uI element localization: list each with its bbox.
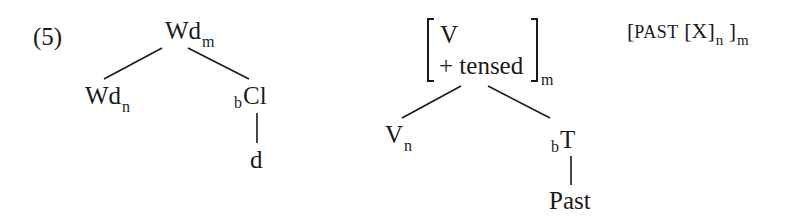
tree2-left-node: Vn bbox=[385, 122, 412, 147]
tree1-root-label: Wd bbox=[165, 17, 201, 44]
tree1-root-node: Wdm bbox=[165, 18, 215, 43]
tree2-root-feature-category: V bbox=[440, 22, 458, 47]
outer-subscript: m bbox=[737, 32, 749, 48]
labelled-bracketing: [PAST [X]n ]m bbox=[627, 20, 749, 42]
tree2-right-node: bT bbox=[551, 127, 575, 152]
tree2-left-label: V bbox=[385, 121, 403, 148]
tree1-left-label: Wd bbox=[85, 82, 121, 109]
tree1-right-prefix: b bbox=[234, 94, 242, 111]
bracket-close-outer: ] bbox=[729, 18, 736, 43]
tree1-left-node: Wdn bbox=[85, 83, 130, 108]
tree1-right-label: Cl bbox=[243, 82, 267, 109]
example-number: (5) bbox=[33, 24, 62, 49]
feature-bracket-left bbox=[427, 18, 434, 82]
tree2-right-label: T bbox=[560, 126, 575, 153]
tree2-root-feature-tensed: + tensed bbox=[439, 53, 523, 78]
tree1-leaf-node: d bbox=[250, 147, 263, 172]
edge-v-t bbox=[488, 86, 550, 118]
feature-bracket-right bbox=[531, 18, 538, 82]
edge-v-vn bbox=[402, 86, 461, 118]
bracket-close-inner: ] bbox=[707, 18, 714, 43]
tree2-leaf-node: Past bbox=[549, 188, 591, 213]
tree2-root-subscript: m bbox=[541, 72, 553, 88]
inner-subscript: n bbox=[716, 32, 724, 48]
edge-wdm-wdn bbox=[104, 48, 162, 79]
bracket-open-inner: [ bbox=[684, 18, 691, 43]
tree1-right-node: bCl bbox=[234, 83, 267, 108]
stem-variable: X bbox=[692, 18, 708, 43]
tree2-left-subscript: n bbox=[404, 137, 412, 154]
tree2-right-prefix: b bbox=[551, 138, 559, 155]
past-morpheme: PAST bbox=[634, 22, 678, 42]
edge-wdm-cl bbox=[188, 48, 249, 79]
tree1-root-subscript: m bbox=[202, 33, 214, 50]
tree1-left-subscript: n bbox=[122, 98, 130, 115]
